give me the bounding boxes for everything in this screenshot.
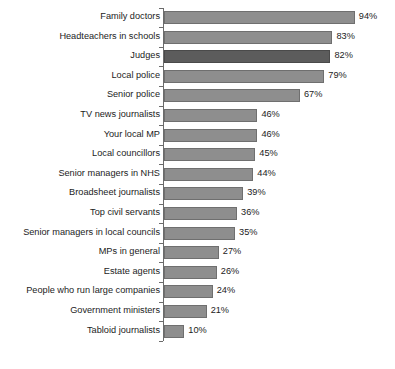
bar-row: Government ministers21% — [0, 305, 395, 318]
bar-row: Senior police67% — [0, 89, 395, 102]
axis-tick — [159, 125, 163, 126]
bar-row: Headteachers in schools83% — [0, 31, 395, 44]
bar — [164, 266, 217, 279]
axis-tick — [159, 243, 163, 244]
bar-value-label: 45% — [259, 147, 277, 160]
bar-value-label: 82% — [334, 49, 352, 62]
category-label: Tabloid journalists — [0, 324, 160, 337]
bar-row: TV news journalists46% — [0, 109, 395, 122]
bar-value-label: 35% — [239, 226, 257, 239]
bar-value-label: 46% — [261, 108, 279, 121]
bar-value-label: 36% — [241, 206, 259, 219]
bar-row: Senior managers in NHS44% — [0, 168, 395, 181]
category-label: Judges — [0, 49, 160, 62]
category-label: Government ministers — [0, 304, 160, 317]
bar-row: Local police79% — [0, 70, 395, 83]
bar — [164, 129, 257, 142]
axis-tick — [159, 204, 163, 205]
category-label: Top civil servants — [0, 206, 160, 219]
bar-row: Tabloid journalists10% — [0, 325, 395, 338]
axis-tick — [159, 66, 163, 67]
axis-tick — [159, 86, 163, 87]
axis-tick — [159, 145, 163, 146]
bar — [164, 70, 324, 83]
category-label: Local police — [0, 69, 160, 82]
bar-row: Local councillors45% — [0, 148, 395, 161]
bar-value-label: 24% — [217, 284, 235, 297]
bar-row: Family doctors94% — [0, 11, 395, 24]
bar — [164, 109, 257, 122]
axis-tick — [159, 341, 163, 342]
category-label: Local councillors — [0, 147, 160, 160]
category-label: Headteachers in schools — [0, 30, 160, 43]
bar — [164, 246, 219, 259]
bar-value-label: 79% — [328, 69, 346, 82]
bar-row: Senior managers in local councils35% — [0, 227, 395, 240]
axis-tick — [159, 282, 163, 283]
bar-chart: Family doctors94%Headteachers in schools… — [0, 0, 395, 369]
axis-tick — [159, 106, 163, 107]
axis-tick — [159, 8, 163, 9]
bar-value-label: 67% — [304, 88, 322, 101]
bar-value-label: 26% — [221, 265, 239, 278]
bar-value-label: 83% — [336, 30, 354, 43]
axis-tick — [159, 184, 163, 185]
bar — [164, 168, 253, 181]
bar — [164, 187, 243, 200]
bar — [164, 207, 237, 220]
axis-tick — [159, 164, 163, 165]
bar-value-label: 44% — [257, 167, 275, 180]
category-label: TV news journalists — [0, 108, 160, 121]
category-label: Family doctors — [0, 10, 160, 23]
plot-area: Family doctors94%Headteachers in schools… — [0, 0, 395, 369]
bar — [164, 227, 235, 240]
category-label: MPs in general — [0, 245, 160, 258]
category-label: Senior managers in NHS — [0, 167, 160, 180]
axis-tick — [159, 223, 163, 224]
bar — [164, 50, 330, 63]
axis-tick — [159, 47, 163, 48]
bar-value-label: 46% — [261, 128, 279, 141]
bar-value-label: 21% — [211, 304, 229, 317]
category-label: Estate agents — [0, 265, 160, 278]
axis-tick — [159, 27, 163, 28]
category-label: Your local MP — [0, 128, 160, 141]
bar-row: People who run large companies24% — [0, 285, 395, 298]
category-label: Broadsheet journalists — [0, 186, 160, 199]
bar — [164, 89, 300, 102]
axis-tick — [159, 321, 163, 322]
bar-row: Your local MP46% — [0, 129, 395, 142]
bar — [164, 11, 355, 24]
bar — [164, 31, 332, 44]
category-label: Senior managers in local councils — [0, 226, 160, 239]
axis-tick — [159, 302, 163, 303]
bar-value-label: 94% — [359, 10, 377, 23]
bar-row: Broadsheet journalists39% — [0, 187, 395, 200]
bar-value-label: 10% — [188, 324, 206, 337]
bar — [164, 325, 184, 338]
axis-tick — [159, 262, 163, 263]
category-label: Senior police — [0, 88, 160, 101]
bar-row: Judges82% — [0, 50, 395, 63]
category-label: People who run large companies — [0, 284, 160, 297]
bar-row: MPs in general27% — [0, 246, 395, 259]
bar-row: Estate agents26% — [0, 266, 395, 279]
bar-row: Top civil servants36% — [0, 207, 395, 220]
bar — [164, 305, 207, 318]
bar — [164, 148, 255, 161]
bar-value-label: 27% — [223, 245, 241, 258]
bar — [164, 285, 213, 298]
bar-value-label: 39% — [247, 186, 265, 199]
